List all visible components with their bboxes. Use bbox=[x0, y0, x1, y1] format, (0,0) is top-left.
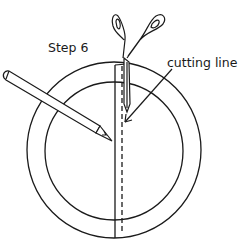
inner-circle bbox=[45, 82, 183, 220]
pencil-icon bbox=[3, 71, 112, 141]
step-6-diagram: Step 6 cutting line bbox=[0, 0, 240, 249]
cutting-line-arrow bbox=[125, 69, 172, 122]
cutting-line-label: cutting line bbox=[167, 55, 238, 70]
step-label: Step 6 bbox=[48, 40, 88, 55]
outer-circle bbox=[27, 62, 201, 238]
